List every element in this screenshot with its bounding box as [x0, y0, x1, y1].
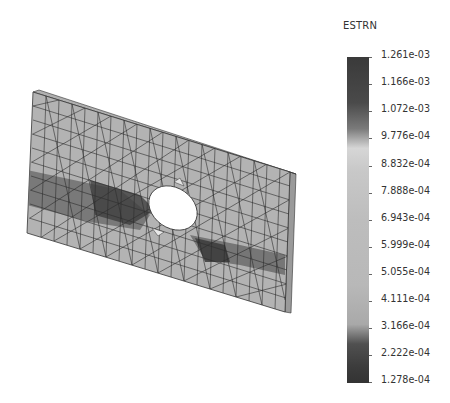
legend-label: 4.111e-04	[381, 294, 430, 304]
tick-mark	[369, 166, 372, 167]
legend-label: 8.832e-04	[381, 159, 430, 169]
legend-label: 9.776e-04	[381, 131, 430, 141]
legend-label: 6.943e-04	[381, 213, 430, 223]
tick-mark	[369, 84, 372, 85]
legend-label: 1.261e-03	[381, 50, 430, 60]
legend-label: 5.999e-04	[381, 240, 430, 250]
legend-label: 7.888e-04	[381, 186, 430, 196]
tick-mark	[369, 57, 372, 58]
legend-title: ESTRN	[343, 20, 377, 31]
mesh-viewport[interactable]	[0, 0, 330, 403]
plate-body	[27, 90, 296, 313]
legend-label: 5.055e-04	[381, 267, 430, 277]
legend-label: 3.166e-04	[381, 321, 430, 331]
tick-mark	[369, 111, 372, 112]
tick-mark	[369, 138, 372, 139]
tick-mark	[369, 328, 372, 329]
tick-mark	[369, 355, 372, 356]
tick-mark	[369, 382, 372, 383]
tick-mark	[369, 193, 372, 194]
tick-mark	[369, 220, 372, 221]
tick-mark	[369, 247, 372, 248]
tick-mark	[369, 274, 372, 275]
legend-label: 1.278e-04	[381, 375, 430, 385]
tick-mark	[369, 301, 372, 302]
legend-label: 1.166e-03	[381, 77, 430, 87]
legend-label: 2.222e-04	[381, 348, 430, 358]
legend-label: 1.072e-03	[381, 104, 430, 114]
colorbar	[347, 57, 369, 383]
